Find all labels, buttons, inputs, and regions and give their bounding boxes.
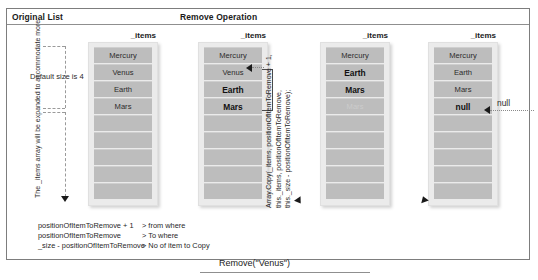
array-panel: Mercury Earth Mars Mars	[320, 42, 390, 206]
array-cell: Earth	[204, 81, 262, 97]
array-cell-empty	[326, 166, 384, 182]
null-callout-arrow-icon	[484, 106, 490, 114]
array-cell-empty	[94, 183, 152, 199]
array-cell-empty	[204, 149, 262, 165]
array-cell-empty	[204, 166, 262, 182]
array-cell: Mercury	[434, 47, 492, 63]
expand-bracket-line	[65, 112, 66, 197]
array-cell: Mercury	[204, 47, 262, 63]
expand-note: The _items array will be expanded to acc…	[33, 108, 42, 198]
array-column-step2: _items Mercury Earth Mars Mars	[320, 30, 390, 206]
array-cell: Mars	[204, 98, 262, 114]
array-cell-empty	[434, 183, 492, 199]
array-cell-empty	[434, 115, 492, 131]
array-cell: Mars	[94, 98, 152, 114]
default-size-bracket-bottom	[43, 108, 65, 109]
legend-term: positionOfItemToRemove	[38, 231, 142, 241]
legend-row: _size - positionOfItemToRemove> No of it…	[38, 241, 210, 251]
array-cell-empty	[204, 132, 262, 148]
array-cell-empty	[94, 149, 152, 165]
array-cell: Venus	[94, 64, 152, 80]
diagram-caption: Remove("Venus")	[219, 258, 290, 268]
legend-row: positionOfItemToRemove> To where	[38, 231, 178, 241]
legend-desc: > To where	[142, 231, 178, 240]
array-cell-empty	[94, 166, 152, 182]
code-note-line: this._items, positionOfItemToRemove,	[274, 54, 284, 208]
array-cell: Earth	[94, 81, 152, 97]
array-cell-empty	[434, 166, 492, 182]
array-cell-empty	[204, 183, 262, 199]
array-cell-empty	[326, 149, 384, 165]
expand-arrow-down-icon	[61, 196, 69, 202]
null-callout-label: null	[497, 98, 510, 108]
array-panel: Mercury Earth Mars null	[428, 42, 498, 206]
array-cell: Earth	[434, 64, 492, 80]
code-note-line: this._size - positionOfItemToRemove);	[283, 54, 293, 208]
null-callout-line	[490, 110, 534, 111]
shift-arrow-left-icon	[246, 64, 252, 72]
legend-term: positionOfItemToRemove + 1	[38, 221, 142, 231]
caption-underline	[200, 272, 370, 273]
array-header-label: _items	[320, 30, 390, 42]
array-cell: Mars	[326, 81, 384, 97]
section-title-remove-operation: Remove Operation	[180, 12, 257, 22]
array-cell-empty	[326, 132, 384, 148]
code-note: Array.Copy(_items, positionOfItemToRemov…	[264, 54, 293, 208]
array-cell-empty	[434, 149, 492, 165]
array-cell-empty	[434, 132, 492, 148]
array-cell: Mercury	[94, 47, 152, 63]
array-cell-empty	[326, 115, 384, 131]
code-note-line: Array.Copy(_items, positionOfItemToRemov…	[264, 54, 274, 208]
array-cell-empty	[326, 183, 384, 199]
shift-arrow-line	[252, 67, 264, 68]
array-cell: Mercury	[326, 47, 384, 63]
array-header-label: _items	[198, 30, 268, 42]
array-column-original: _items Mercury Venus Earth Mars	[88, 30, 158, 206]
array-cell: Mars	[326, 98, 384, 114]
array-header-label: _items	[428, 30, 498, 42]
title-divider	[7, 24, 529, 25]
array-cell-empty	[94, 132, 152, 148]
array-cell-empty	[94, 115, 152, 131]
array-panel: Mercury Venus Earth Mars	[88, 42, 158, 206]
array-column-step1: _items Mercury Venus Earth Mars	[198, 30, 268, 206]
array-cell-empty	[204, 115, 262, 131]
legend-term: _size - positionOfItemToRemove	[38, 241, 142, 251]
diagram-canvas: Original List Remove Operation Default s…	[0, 0, 538, 280]
array-column-step3: _items Mercury Earth Mars null	[428, 30, 498, 206]
array-cell: Earth	[326, 64, 384, 80]
expand-bracket-top	[43, 112, 65, 113]
legend-desc: > No of item to Copy	[142, 241, 210, 250]
legend-desc: > from where	[142, 221, 185, 230]
legend-row: positionOfItemToRemove + 1> from where	[38, 221, 185, 231]
array-header-label: _items	[88, 30, 158, 42]
default-size-bracket-top	[43, 46, 65, 47]
array-cell: Mars	[434, 81, 492, 97]
